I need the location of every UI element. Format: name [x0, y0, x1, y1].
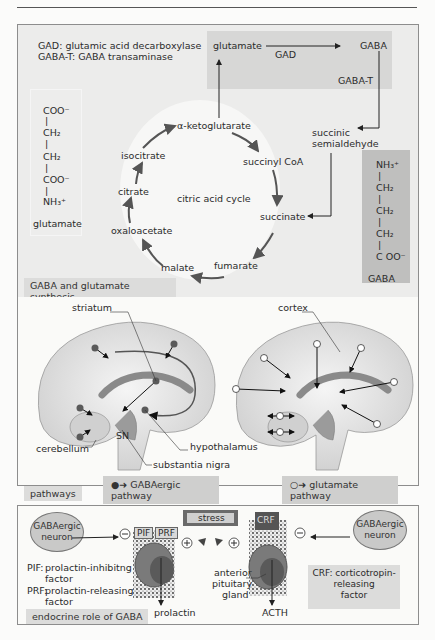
caption-endocrine: endocrine role of GABA: [26, 609, 148, 624]
label-prolactin: prolactin: [154, 607, 196, 618]
def-pif-val1: prolactin-inhibitng: [45, 562, 132, 573]
crf-definition-box: CRF: corticotropin- releasing factor: [308, 565, 400, 609]
label-anterior: anterior: [214, 567, 252, 578]
crf-tag: CRF: [257, 515, 275, 526]
crf-def-line-2: releasing: [308, 579, 400, 590]
stress-label: stress: [198, 513, 225, 524]
def-pif-key: PIF:: [27, 562, 43, 573]
pif-tag: PIF: [134, 527, 153, 539]
def-pif-val2: factor: [45, 573, 73, 584]
crf-def-line-3: factor: [308, 590, 400, 601]
label-acth: ACTH: [262, 607, 288, 618]
label-pituitary: pituitary: [212, 578, 252, 589]
def-prf-val2: factor: [45, 596, 73, 607]
prf-tag: PRF: [155, 527, 178, 539]
crf-def-line-1: CRF: corticotropin-: [308, 568, 400, 579]
label-gland: gland: [222, 589, 249, 600]
endocrine-graphics: [0, 0, 435, 640]
def-prf-val1: prolactin-releasing: [45, 585, 134, 596]
